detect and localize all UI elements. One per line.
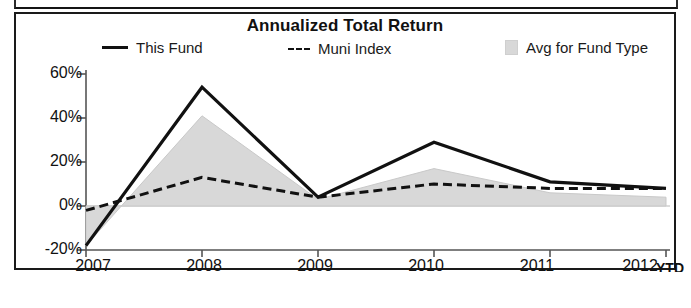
- chart-panel: Annualized Total Return This Fund Muni I…: [14, 12, 676, 270]
- cut-off-panel-above: [14, 0, 678, 9]
- y-axis-label-60: 60%: [30, 64, 82, 82]
- page-background: [0, 272, 691, 308]
- y-axis-label-20: 20%: [30, 152, 82, 170]
- area-series-avg-for-fund-type: [86, 116, 666, 246]
- y-axis-label-0: 0%: [30, 196, 82, 214]
- plot-area: 60% 40% 20% 0% -20% 2007 2008 2009 2010 …: [16, 14, 678, 272]
- y-axis-label-minus-20: -20%: [22, 240, 82, 258]
- y-axis-label-40: 40%: [30, 108, 82, 126]
- chart-plot-svg: [16, 14, 678, 272]
